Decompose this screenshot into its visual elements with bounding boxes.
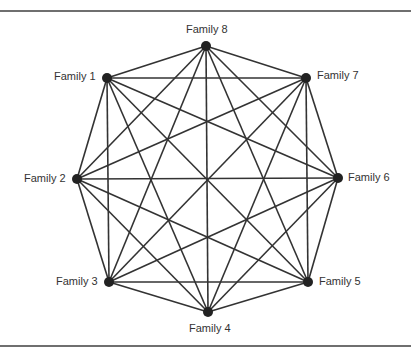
label-family-1: Family 1 [54, 70, 96, 82]
node-f3 [104, 277, 114, 287]
node-f1 [102, 73, 112, 83]
node-f4 [203, 307, 213, 317]
label-family-8: Family 8 [186, 23, 228, 35]
edge-f5-f7 [306, 78, 308, 282]
node-f6 [333, 173, 343, 183]
node-f2 [72, 174, 82, 184]
label-family-3: Family 3 [56, 275, 98, 287]
label-family-5: Family 5 [319, 275, 361, 287]
label-family-4: Family 4 [189, 322, 231, 334]
edge-f1-f3 [107, 78, 109, 282]
node-f7 [301, 73, 311, 83]
edge-f1-f6 [107, 78, 338, 178]
node-f5 [303, 277, 313, 287]
label-family-6: Family 6 [348, 171, 390, 183]
label-family-2: Family 2 [24, 172, 66, 184]
edge-f3-f6 [109, 178, 338, 282]
label-family-7: Family 7 [317, 69, 359, 81]
edge-f4-f8 [206, 46, 208, 312]
node-f8 [201, 41, 211, 51]
edge-f5-f8 [206, 46, 308, 282]
